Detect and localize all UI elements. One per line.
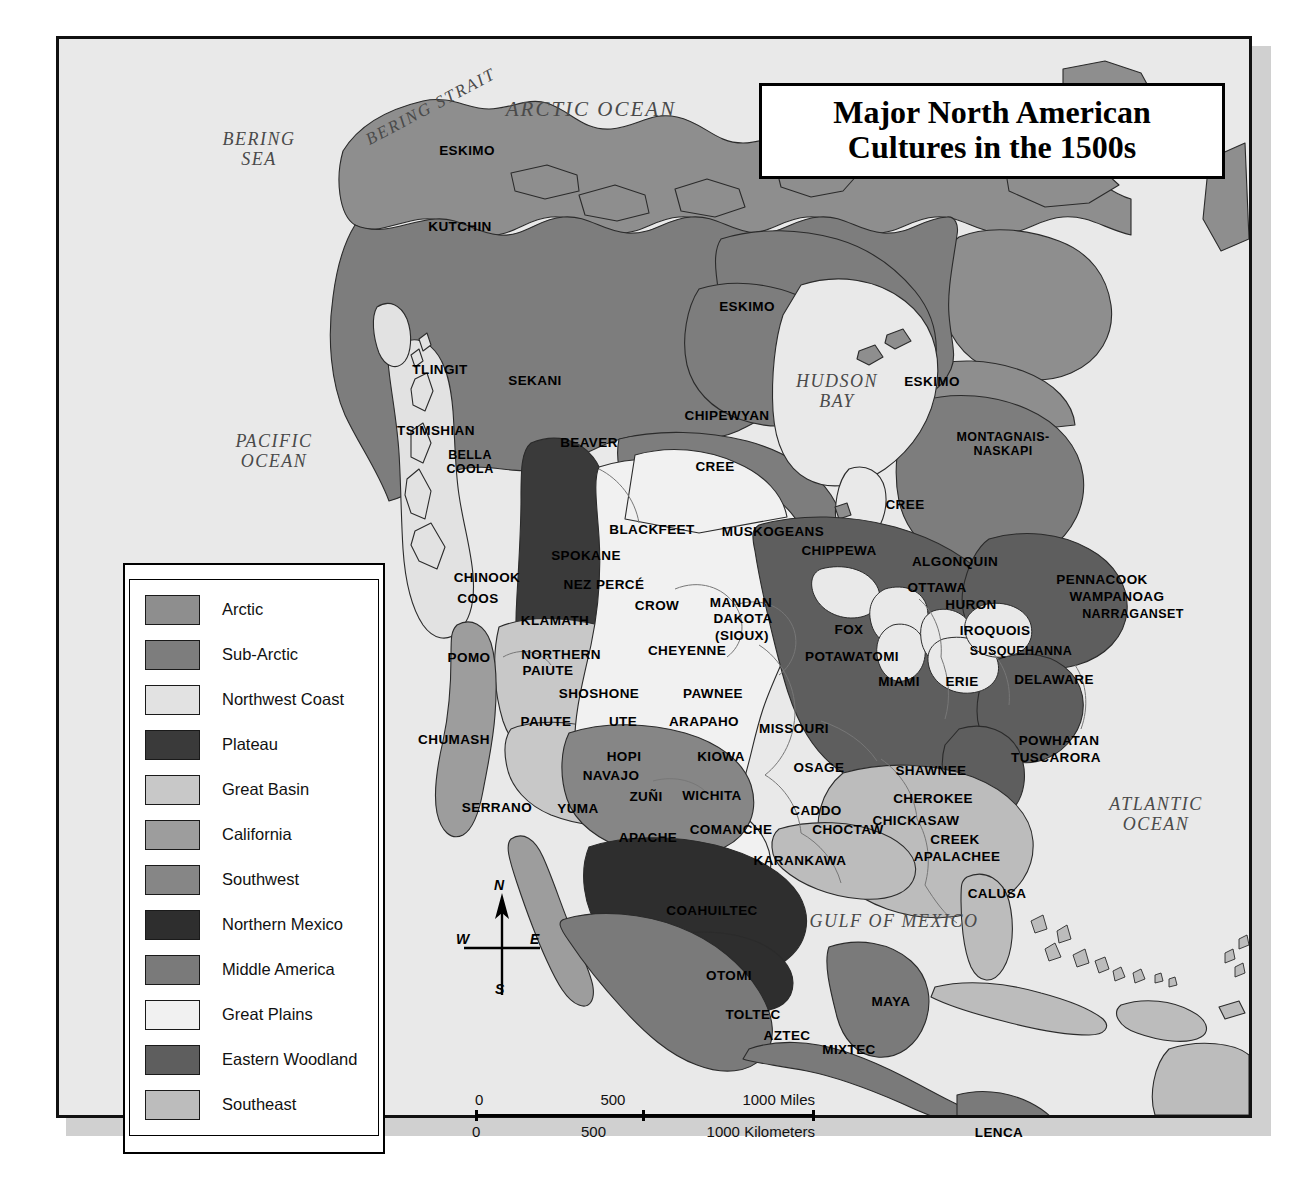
legend-row: Great Plains bbox=[130, 992, 378, 1037]
map-title-line2: Cultures in the 1500s bbox=[768, 130, 1216, 165]
legend-row: California bbox=[130, 812, 378, 857]
legend-row: Arctic bbox=[130, 587, 378, 632]
legend-label: Great Basin bbox=[222, 780, 309, 799]
compass-north-label: N bbox=[494, 877, 504, 893]
map-legend: ArcticSub-ArcticNorthwest CoastPlateauGr… bbox=[123, 563, 385, 1154]
legend-label: Sub-Arctic bbox=[222, 645, 298, 664]
legend-inner-border: ArcticSub-ArcticNorthwest CoastPlateauGr… bbox=[129, 579, 379, 1136]
compass-south-label: S bbox=[495, 981, 504, 997]
scale-km-zero: 0 bbox=[472, 1123, 480, 1140]
legend-row: Southeast bbox=[130, 1082, 378, 1127]
compass-west-label: W bbox=[456, 931, 469, 947]
legend-label: Northwest Coast bbox=[222, 690, 344, 709]
legend-row: Southwest bbox=[130, 857, 378, 902]
scale-miles-mid: 500 bbox=[600, 1091, 625, 1108]
legend-swatch bbox=[145, 865, 200, 895]
scale-km-end: 1000 Kilometers bbox=[707, 1123, 815, 1140]
legend-label: Southeast bbox=[222, 1095, 296, 1114]
map-title-box: Major North American Cultures in the 150… bbox=[759, 83, 1225, 179]
legend-label: Plateau bbox=[222, 735, 278, 754]
scale-miles-end: 1000 Miles bbox=[742, 1091, 815, 1108]
scale-km-mid: 500 bbox=[581, 1123, 606, 1140]
legend-swatch bbox=[145, 1000, 200, 1030]
legend-swatch bbox=[145, 910, 200, 940]
legend-label: Arctic bbox=[222, 600, 263, 619]
legend-swatch bbox=[145, 775, 200, 805]
legend-label: Southwest bbox=[222, 870, 299, 889]
map-frame: BERING SEABERING STRAITARCTIC OCEANPACIF… bbox=[56, 36, 1252, 1118]
legend-swatch bbox=[145, 1045, 200, 1075]
legend-swatch bbox=[145, 640, 200, 670]
scale-bar-graphic bbox=[475, 1110, 815, 1120]
scale-km-labels: 0 500 1000 Kilometers bbox=[475, 1120, 815, 1140]
scale-miles-labels: 0 500 1000 Miles bbox=[475, 1091, 815, 1110]
map-title-line1: Major North American bbox=[768, 95, 1216, 130]
legend-label: Great Plains bbox=[222, 1005, 313, 1024]
map-page: BERING SEABERING STRAITARCTIC OCEANPACIF… bbox=[0, 0, 1303, 1182]
legend-label: Northern Mexico bbox=[222, 915, 343, 934]
legend-row: Great Basin bbox=[130, 767, 378, 812]
scale-bar: 0 500 1000 Miles 0 500 1000 Kilometers bbox=[475, 1091, 815, 1140]
legend-label: Eastern Woodland bbox=[222, 1050, 357, 1069]
compass-east-label: E bbox=[530, 931, 539, 947]
legend-swatch bbox=[145, 820, 200, 850]
legend-row: Sub-Arctic bbox=[130, 632, 378, 677]
legend-row: Plateau bbox=[130, 722, 378, 767]
legend-swatch bbox=[145, 955, 200, 985]
legend-swatch bbox=[145, 730, 200, 760]
legend-label: Middle America bbox=[222, 960, 335, 979]
legend-row: Northern Mexico bbox=[130, 902, 378, 947]
legend-row: Eastern Woodland bbox=[130, 1037, 378, 1082]
legend-label: California bbox=[222, 825, 292, 844]
legend-row: Northwest Coast bbox=[130, 677, 378, 722]
legend-row: Middle America bbox=[130, 947, 378, 992]
scale-miles-zero: 0 bbox=[475, 1091, 483, 1108]
legend-swatch bbox=[145, 1090, 200, 1120]
compass-rose: N E S W bbox=[456, 877, 548, 997]
legend-swatch bbox=[145, 685, 200, 715]
legend-swatch bbox=[145, 595, 200, 625]
